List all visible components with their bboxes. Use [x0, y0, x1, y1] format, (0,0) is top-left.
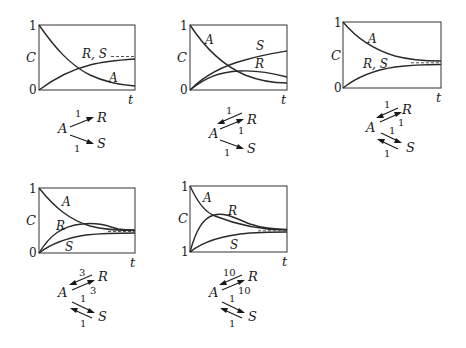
arrow-head-icon: [377, 139, 385, 144]
arrow-head-icon: [87, 308, 95, 313]
curve-rs: [39, 59, 135, 90]
rate-constant: 1: [229, 293, 235, 304]
curve-a: [343, 22, 441, 61]
label-r: R: [227, 204, 237, 218]
reaction-scheme: A R S 10 10 1 1: [208, 267, 258, 329]
curve-s: [190, 232, 287, 252]
arrow-head-icon: [69, 280, 77, 285]
y-axis-label: C: [331, 48, 341, 63]
species-s: S: [406, 140, 415, 155]
species-r: R: [96, 110, 107, 125]
y-tick-top: 1: [334, 16, 342, 30]
y-tick-bottom: 0: [334, 81, 342, 95]
x-axis-label: t: [130, 255, 136, 270]
species-a: A: [365, 120, 375, 135]
rate-constant: 1: [226, 105, 232, 116]
reaction-scheme: A R S 1 1 1 1: [365, 99, 415, 159]
y-tick-bottom: 0: [29, 83, 37, 97]
arrow-head-icon: [236, 119, 244, 124]
x-axis-label: t: [281, 92, 287, 107]
arrow-head-icon: [86, 139, 94, 144]
species-a: A: [208, 285, 218, 300]
species-r: R: [97, 269, 108, 284]
rate-constant: 3: [79, 267, 85, 278]
rate-constant: 10: [238, 285, 251, 296]
x-axis-label: t: [282, 254, 288, 269]
reaction-scheme: A R S 1 1 1: [208, 105, 257, 158]
y-tick-bottom: 0: [29, 246, 37, 260]
reaction-scheme: A R S 3 3 1 1: [57, 267, 108, 329]
panel-3: 1 C 0 t A R, S A R S 1 1 1 1: [331, 16, 442, 159]
y-tick-bottom: 0: [180, 83, 188, 97]
species-r: R: [247, 269, 258, 284]
species-s: S: [97, 136, 106, 151]
species-s: S: [98, 309, 107, 324]
arrow-head-icon: [86, 117, 94, 122]
y-tick-top: 1: [29, 182, 37, 196]
rate-constant: 1: [75, 108, 81, 119]
rate-constant: 1: [74, 143, 80, 154]
y-axis-label: C: [26, 213, 36, 228]
arrow-head-icon: [220, 308, 228, 313]
species-a: A: [208, 126, 218, 141]
panel-1: 1 C 0 t R, S A A R S 1 1: [26, 19, 135, 154]
rate-constant: 3: [90, 285, 96, 296]
species-s: S: [248, 309, 257, 324]
rate-constant: 1: [384, 148, 390, 159]
y-tick-top: 1: [181, 180, 189, 194]
rate-constant: 10: [223, 267, 236, 278]
x-axis-label: t: [436, 90, 442, 105]
curve-rs: [343, 65, 441, 89]
species-a: A: [57, 121, 67, 136]
y-axis-label: C: [178, 211, 188, 226]
rate-constant: 1: [389, 125, 395, 136]
y-tick-top: 1: [180, 19, 188, 33]
arrow-head-icon: [236, 144, 244, 149]
rate-constant: 1: [398, 117, 404, 128]
label-a: A: [204, 33, 214, 47]
rate-constant: 1: [224, 147, 230, 158]
rate-constant: 1: [384, 99, 390, 110]
panel-2: 1 C 0 t A S R A R S 1 1 1: [177, 19, 287, 158]
label-r: R: [55, 219, 65, 233]
y-axis-label: C: [177, 50, 187, 65]
rate-constant: 1: [80, 293, 86, 304]
curve-r: [190, 71, 287, 90]
kinetics-figure: 1 C 0 t R, S A A R S 1 1 1 C 0 t A S: [0, 0, 466, 348]
panel-5: 1 C 1 t A R S A R S 10 10 1 1: [178, 180, 288, 329]
label-rs: R, S: [81, 47, 107, 61]
arrow-head-icon: [70, 308, 78, 313]
rate-constant: 1: [229, 318, 235, 329]
plot-frame: [39, 188, 135, 253]
label-s: S: [230, 238, 238, 252]
species-s: S: [247, 141, 256, 156]
label-s: S: [256, 39, 264, 53]
species-r: R: [246, 112, 257, 127]
label-a: A: [108, 71, 118, 85]
y-tick-top: 1: [29, 19, 37, 33]
y-axis-label: C: [26, 50, 36, 65]
rate-constant: 1: [238, 125, 244, 136]
arrow-head-icon: [376, 113, 384, 118]
label-a: A: [367, 32, 377, 46]
arrow-head-icon: [394, 138, 402, 143]
reaction-scheme: A R S 1 1: [57, 108, 107, 154]
arrow-head-icon: [219, 280, 227, 285]
y-tick-bottom: 1: [181, 245, 189, 259]
label-a: A: [61, 195, 71, 209]
label-rs: R, S: [362, 57, 388, 71]
arrow-head-icon: [237, 308, 245, 313]
species-a: A: [57, 285, 67, 300]
x-axis-label: t: [128, 92, 134, 107]
rate-constant: 1: [80, 318, 86, 329]
species-r: R: [401, 102, 412, 117]
arrow-head-icon: [217, 119, 225, 124]
label-a: A: [202, 191, 212, 205]
label-r: R: [254, 57, 264, 71]
label-s: S: [65, 240, 73, 254]
curve-r: [39, 223, 135, 253]
panel-4: 1 C 0 t A R S A R S 3 3 1 1: [26, 182, 136, 329]
curve-r: [190, 214, 287, 252]
